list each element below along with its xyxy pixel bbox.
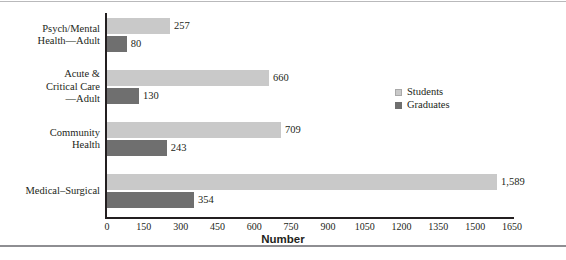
- bar-value-label: 257: [174, 18, 190, 34]
- legend-label-students: Students: [407, 86, 443, 98]
- category-label: Medical–Surgical: [0, 185, 100, 198]
- bar-graduates: [107, 88, 139, 104]
- bar-graduates: [107, 140, 167, 156]
- bar-value-label: 709: [285, 122, 301, 138]
- x-tick-label: 1350: [418, 221, 458, 233]
- category-axis-labels: Psych/MentalHealth—AdultAcute &Critical …: [0, 0, 100, 219]
- bar-value-label: 130: [143, 88, 159, 104]
- bottom-rule: [0, 245, 566, 247]
- legend-label-graduates: Graduates: [407, 99, 450, 111]
- x-tick-label: 900: [308, 221, 348, 233]
- category-label-line: Health: [0, 139, 100, 152]
- category-label-line: Psych/Mental: [0, 23, 100, 36]
- x-tick-label: 1500: [455, 221, 495, 233]
- category-label: Psych/MentalHealth—Adult: [0, 23, 100, 48]
- category-label-line: Critical Care: [0, 81, 100, 94]
- bar-graduates: [107, 192, 194, 208]
- x-tick-label: 1650: [492, 221, 532, 233]
- category-label-line: —Adult: [0, 93, 100, 106]
- bar-value-label: 660: [273, 70, 289, 86]
- x-axis-line: [105, 217, 514, 219]
- bar-value-label: 1,589: [501, 174, 525, 190]
- chart-legend: Students Graduates: [395, 86, 450, 112]
- legend-swatch-students-icon: [395, 89, 402, 96]
- category-label-line: Health—Adult: [0, 35, 100, 48]
- horizontal-bar-chart: Psych/MentalHealth—AdultAcute &Critical …: [0, 0, 566, 245]
- bar-students: [107, 18, 170, 34]
- bar-graduates: [107, 36, 127, 52]
- bar-value-label: 243: [171, 140, 187, 156]
- category-label: CommunityHealth: [0, 127, 100, 152]
- bar-value-label: 354: [198, 192, 214, 208]
- x-tick-label: 1050: [345, 221, 385, 233]
- x-tick-label: 450: [197, 221, 237, 233]
- x-axis-title: Number: [0, 233, 566, 245]
- x-tick-label: 300: [161, 221, 201, 233]
- x-tick-label: 150: [124, 221, 164, 233]
- bar-value-label: 80: [131, 36, 142, 52]
- category-label-line: Medical–Surgical: [0, 185, 100, 198]
- category-label: Acute &Critical Care—Adult: [0, 68, 100, 106]
- category-label-line: Acute &: [0, 68, 100, 81]
- x-tick-label: 750: [271, 221, 311, 233]
- category-label-line: Community: [0, 127, 100, 140]
- x-tick-label: 0: [87, 221, 127, 233]
- bar-students: [107, 70, 269, 86]
- bar-students: [107, 122, 281, 138]
- x-tick-label: 1200: [382, 221, 422, 233]
- legend-swatch-graduates-icon: [395, 102, 402, 109]
- x-tick-label: 600: [234, 221, 274, 233]
- legend-item-graduates: Graduates: [395, 99, 450, 111]
- bar-students: [107, 174, 497, 190]
- legend-item-students: Students: [395, 86, 450, 98]
